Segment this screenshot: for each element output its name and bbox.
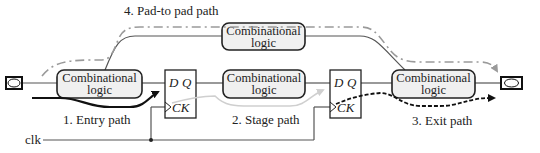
svg-text:logic: logic [421, 83, 446, 97]
svg-text:logic: logic [251, 36, 276, 50]
comb-logic-2: Combinational logic [223, 70, 305, 98]
timing-paths-diagram: Combinational logic Combinational logic … [0, 0, 540, 153]
exit-path-label: 3. Exit path [412, 113, 473, 128]
comb-logic-1: Combinational logic [57, 70, 142, 98]
svg-text:CK: CK [337, 100, 356, 115]
svg-text:D: D [333, 75, 344, 90]
clock-junction-dot [149, 138, 153, 142]
svg-text:Q: Q [182, 75, 192, 90]
input-pad-icon [6, 77, 22, 89]
svg-text:logic: logic [252, 83, 277, 97]
output-pad-icon [501, 77, 522, 89]
svg-text:D: D [168, 75, 179, 90]
comb-logic-3: Combinational logic [392, 70, 475, 98]
pad-to-pad-label: 4. Pad-to pad path [124, 3, 219, 18]
entry-path-label: 1. Entry path [63, 112, 131, 127]
svg-text:Q: Q [347, 75, 357, 90]
svg-text:logic: logic [87, 83, 112, 97]
flipflop-2: D Q CK [330, 70, 361, 118]
stage-path-label: 2. Stage path [232, 112, 300, 127]
clk-label: clk [25, 132, 41, 147]
flipflop-1: D Q CK [165, 70, 196, 118]
